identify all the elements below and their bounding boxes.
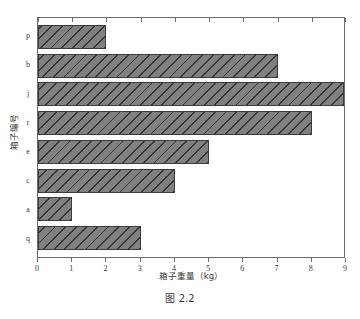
bar-row (38, 140, 344, 164)
bar-row (38, 54, 344, 78)
bar-r (38, 111, 312, 135)
figure-container: pbjrecaq 0123456789 箱子重量（kg） 箱子编号 图 2.2 (0, 0, 360, 319)
y-tick-label-c: c (21, 176, 35, 186)
y-tick-label-b: b (21, 60, 35, 70)
x-tick-mark (71, 258, 72, 262)
y-tick-label-q: q (21, 234, 35, 244)
x-axis-title: 箱子重量（kg） (37, 270, 345, 282)
y-tick-label-a: a (21, 205, 35, 215)
y-tick-label-p: p (21, 31, 35, 41)
plot-area (37, 17, 345, 258)
x-tick-mark (140, 258, 141, 262)
x-tick-mark-top (345, 18, 346, 22)
bar-row (38, 169, 344, 193)
bar-e (38, 140, 209, 164)
bar-row (38, 226, 344, 250)
x-tick-mark (208, 258, 209, 262)
y-tick-label-j: j (21, 89, 35, 99)
x-tick-mark (277, 258, 278, 262)
x-tick-mark (105, 258, 106, 262)
y-tick-label-e: e (21, 147, 35, 157)
bar-q (38, 226, 141, 250)
x-tick-mark (242, 258, 243, 262)
x-tick-mark (174, 258, 175, 262)
bar-j (38, 82, 344, 106)
bars-group (38, 18, 344, 257)
bar-row (38, 197, 344, 221)
bar-a (38, 197, 72, 221)
x-tick-mark (311, 258, 312, 262)
bar-p (38, 25, 106, 49)
bar-b (38, 54, 278, 78)
figure-caption: 图 2.2 (0, 292, 360, 305)
x-tick-mark (345, 258, 346, 262)
y-tick-label-r: r (21, 118, 35, 128)
bar-row (38, 111, 344, 135)
x-tick-mark (37, 258, 38, 262)
bar-row (38, 25, 344, 49)
bar-c (38, 169, 175, 193)
bar-row (38, 82, 344, 106)
y-axis-title: 箱子编号 (8, 102, 20, 162)
